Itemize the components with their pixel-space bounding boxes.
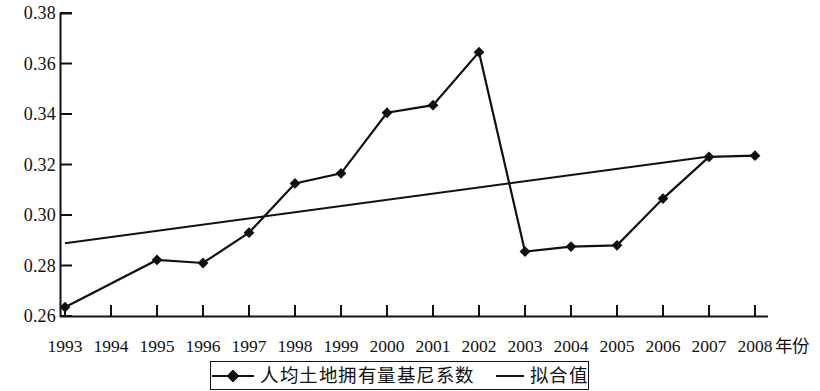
y-axis-ticks [60,13,72,316]
axis-lines [60,13,768,317]
x-axis-tick-labels: 1993199419951996199719981999200020012002… [0,334,820,360]
gini-data-point-marker [750,150,761,161]
x-tick-label: 2008 [728,334,782,358]
chart-figure: 0.380.360.340.320.300.280.26 19931994199… [0,0,820,391]
series-fitted-line [65,156,709,243]
legend-line-diamond-icon [211,368,255,384]
series-gini-markers [60,47,761,313]
x-axis-ticks [65,305,755,316]
gini-data-point-marker [152,255,163,266]
legend-label-fitted: 拟合值 [530,366,589,386]
gini-polyline [65,52,755,307]
series-gini-line [65,52,755,307]
legend-entry-gini: 人均土地拥有量基尼系数 [211,366,475,386]
gini-data-point-marker [566,241,577,252]
plot-area [0,0,820,340]
gini-data-point-marker [520,246,531,257]
chart-legend: 人均土地拥有量基尼系数 拟合值 [210,361,589,390]
x-axis-title: 年份 [775,334,809,358]
legend-entry-fitted: 拟合值 [495,366,589,386]
fitted-trend-line [65,156,709,243]
legend-label-gini: 人均土地拥有量基尼系数 [260,366,475,386]
legend-plain-line-icon [495,368,525,384]
